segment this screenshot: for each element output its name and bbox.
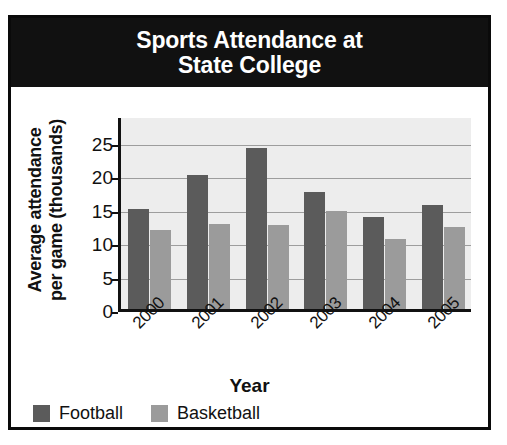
y-axis-tick-label: 5 <box>77 268 113 290</box>
y-axis-title-line-1: Average attendance <box>25 128 46 293</box>
chart-body: Average attendance per game (thousands) … <box>11 87 488 430</box>
y-axis-tick-label: 10 <box>77 234 113 256</box>
x-axis-title: Year <box>11 375 488 397</box>
y-axis-tick-label: 25 <box>77 134 113 156</box>
gridline <box>121 178 471 179</box>
y-axis-tick-label: 15 <box>77 201 113 223</box>
y-axis-tick-label: 20 <box>77 167 113 189</box>
legend-label: Football <box>59 403 123 424</box>
y-axis-tick-mark <box>112 145 118 147</box>
legend-swatch-icon <box>151 405 168 422</box>
y-axis-title-line-2: per game (thousands) <box>46 119 67 301</box>
gridline <box>121 279 471 280</box>
bar-football-2003 <box>304 192 325 309</box>
chart-title-line-1: Sports Attendance at <box>136 28 362 53</box>
bar-football-2002 <box>246 148 267 309</box>
gridline <box>121 145 471 146</box>
y-axis-tick-mark <box>112 212 118 214</box>
bar-football-2005 <box>422 205 443 309</box>
gridline <box>121 212 471 213</box>
chart-title-line-2: State College <box>178 53 321 78</box>
chart-legend: FootballBasketball <box>33 403 260 424</box>
bar-football-2004 <box>363 217 384 309</box>
legend-item: Basketball <box>151 403 260 424</box>
legend-swatch-icon <box>33 405 50 422</box>
y-axis-tick-mark <box>112 245 118 247</box>
legend-item: Football <box>33 403 123 424</box>
bar-football-2001 <box>187 175 208 309</box>
chart-title-banner: Sports Attendance at State College <box>11 18 488 87</box>
bar-football-2000 <box>128 209 149 309</box>
y-axis-title: Average attendance per game (thousands) <box>23 103 69 318</box>
y-axis-tick-labels: 0510152025 <box>71 118 113 312</box>
plot-area <box>118 118 471 312</box>
chart-figure: Sports Attendance at State College Avera… <box>8 15 491 430</box>
gridline <box>121 245 471 246</box>
y-axis-tick-mark <box>112 312 118 314</box>
y-axis-tick-mark <box>112 178 118 180</box>
y-axis-tick-label: 0 <box>77 301 113 323</box>
y-axis-tick-mark <box>112 279 118 281</box>
legend-label: Basketball <box>177 403 260 424</box>
